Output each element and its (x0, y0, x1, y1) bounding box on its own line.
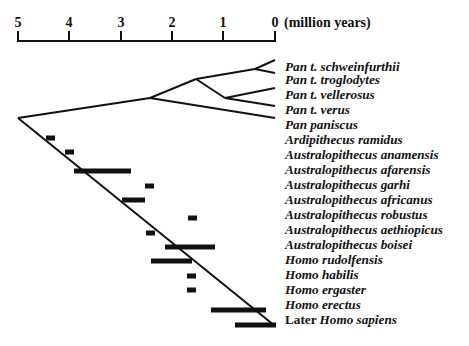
fossil-range-bar (46, 136, 55, 141)
taxon-label: Australopithecus africanus (285, 193, 433, 207)
fossil-range-bar (235, 323, 276, 328)
taxon-label: Pan t. troglodytes (285, 73, 380, 87)
axis-tick-label: 2 (169, 15, 176, 30)
fossil-range-bar (146, 231, 155, 236)
taxon-name: Homo rudolfensis (285, 252, 383, 267)
taxon-name: Pan paniscus (285, 117, 358, 132)
tree-branch (18, 98, 150, 118)
tree-branch (196, 69, 255, 79)
tree-branch (255, 60, 275, 69)
fossil-range-bar (165, 245, 215, 250)
axis-tick-label: 0 (272, 15, 279, 30)
taxon-name: Australopithecus afarensis (285, 162, 430, 177)
tree-branch (225, 98, 275, 106)
taxon-name: Homo ergaster (285, 282, 366, 297)
taxon-label: Australopithecus aethiopicus (285, 223, 443, 237)
tree-branch (150, 98, 275, 118)
fossil-range-bar (151, 259, 192, 264)
axis-tick-label: 3 (118, 15, 125, 30)
taxon-label: Ardipithecus ramidus (285, 133, 403, 147)
taxon-name: Australopithecus africanus (285, 192, 433, 207)
axis-tick-label: 1 (220, 15, 227, 30)
tree-branches (18, 60, 275, 326)
fossil-range-bar (187, 288, 196, 293)
taxon-prefix: Later (285, 312, 320, 327)
taxon-label: Australopithecus anamensis (285, 148, 439, 162)
axis-tick-label: 5 (15, 15, 22, 30)
taxon-label: Homo ergaster (285, 283, 366, 297)
tree-branch (225, 88, 275, 98)
axis-unit-label: (million years) (284, 15, 371, 31)
taxon-name: Pan t. vellerosus (285, 87, 375, 102)
tree-branch (18, 118, 275, 326)
taxon-label: Homo habilis (285, 268, 359, 282)
taxon-label: Homo rudolfensis (285, 253, 383, 267)
taxon-name: Australopithecus anamensis (285, 147, 439, 162)
taxon-name: Australopithecus aethiopicus (285, 222, 443, 237)
tree-branch (150, 79, 196, 98)
taxon-label: Australopithecus boisei (285, 238, 412, 252)
fossil-range-bar (188, 216, 197, 221)
taxon-label: Pan t. verus (285, 103, 350, 117)
axis-tick-label: 4 (66, 15, 73, 30)
fossil-range-bar (65, 150, 74, 155)
taxon-name: Australopithecus garhi (285, 177, 410, 192)
taxon-name: Homo erectus (285, 297, 361, 312)
taxon-label: Australopithecus afarensis (285, 163, 430, 177)
taxon-label: Pan paniscus (285, 118, 358, 132)
fossil-range-bar (211, 308, 266, 313)
taxon-label: Pan t. vellerosus (285, 88, 375, 102)
taxon-name: Pan t. verus (285, 102, 350, 117)
taxon-name: Australopithecus boisei (285, 237, 412, 252)
time-axis: 543210 (million years) (15, 15, 372, 42)
taxon-label: Australopithecus garhi (285, 178, 410, 192)
taxon-label: Homo erectus (285, 298, 361, 312)
taxon-name: Australopithecus robustus (285, 207, 428, 222)
fossil-range-bar (122, 198, 145, 203)
taxon-name: Ardipithecus ramidus (285, 132, 403, 147)
taxon-label: Later Homo sapiens (285, 313, 397, 327)
taxon-name: Homo sapiens (320, 312, 397, 327)
fossil-range-bar (74, 169, 131, 174)
fossil-range-bar (145, 184, 154, 189)
taxon-name: Homo habilis (285, 267, 359, 282)
fossil-range-bar (187, 274, 196, 279)
taxon-name: Pan t. troglodytes (285, 72, 380, 87)
tree-branch (196, 79, 225, 98)
tree-branch (255, 69, 275, 73)
taxon-label: Australopithecus robustus (285, 208, 428, 222)
